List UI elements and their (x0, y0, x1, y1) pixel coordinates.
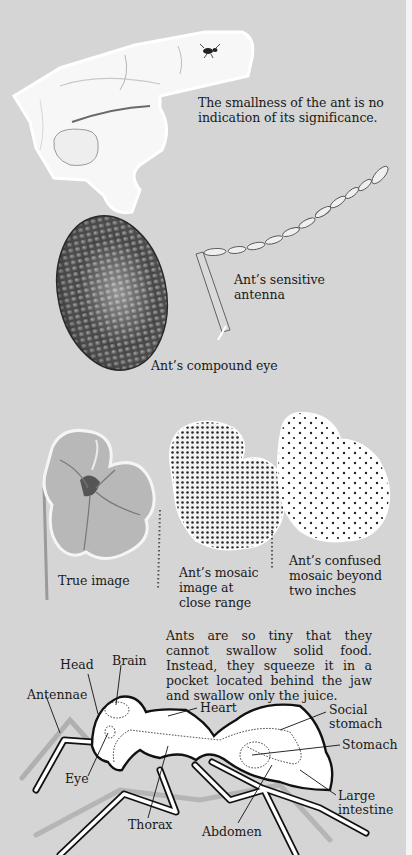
antenna-caption-line-1: Ant’s sensitive (234, 272, 325, 287)
label-large-intestine-line-1: Large (338, 789, 393, 803)
mosaic-confused-caption-line-2: mosaic beyond (289, 568, 382, 583)
finger-caption: The smallness of the ant is no indicatio… (198, 95, 384, 125)
label-social-stomach-line-2: stomach (329, 717, 382, 731)
page-edge (406, 0, 412, 855)
anatomy-paragraph: Ants are so tiny that they cannot swallo… (166, 628, 372, 703)
compound-eye-caption: Ant’s compound eye (151, 358, 278, 373)
label-large-intestine-line-2: intestine (338, 803, 393, 817)
label-social-stomach-line-1: Social (329, 703, 382, 717)
page: The smallness of the ant is no indicatio… (0, 0, 406, 855)
label-social-stomach: Social stomach (329, 703, 382, 731)
mosaic-close-caption: Ant’s mosaic image at close range (179, 565, 259, 610)
mosaic-confused-caption-line-3: two inches (289, 583, 382, 598)
mosaic-close-caption-line-3: close range (179, 595, 259, 610)
label-thorax: Thorax (128, 818, 172, 832)
label-abdomen: Abdomen (202, 825, 262, 839)
label-large-intestine: Large intestine (338, 789, 393, 817)
label-antennae: Antennae (27, 688, 87, 702)
mosaic-close-caption-line-2: image at (179, 580, 259, 595)
label-head: Head (60, 658, 94, 672)
mosaic-confused-caption-line-1: Ant’s confused (289, 553, 382, 568)
label-eye: Eye (65, 772, 89, 786)
mosaic-beyond-two-inches-flower (278, 413, 388, 541)
antenna-illustration (196, 164, 391, 340)
true-image-caption: True image (58, 573, 129, 588)
antenna-caption: Ant’s sensitive antenna (234, 272, 325, 302)
compound-eye-illustration (43, 205, 181, 380)
true-image-caption-line-1: True image (58, 573, 129, 588)
finger-caption-line-2: indication of its significance. (198, 110, 384, 125)
label-heart: Heart (200, 701, 237, 715)
label-stomach: Stomach (342, 738, 397, 752)
mosaic-confused-caption: Ant’s confused mosaic beyond two inches (289, 553, 382, 598)
mosaic-close-caption-line-1: Ant’s mosaic (179, 565, 259, 580)
antenna-caption-line-2: antenna (234, 287, 325, 302)
finger-caption-line-1: The smallness of the ant is no (198, 95, 384, 110)
label-brain: Brain (112, 654, 147, 668)
